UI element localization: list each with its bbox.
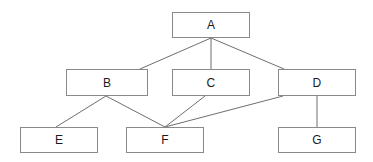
node-a-label: A [207, 19, 215, 31]
node-c-label: C [207, 77, 216, 89]
edge-b-f [106, 96, 165, 127]
node-a[interactable]: A [172, 12, 250, 38]
edge-a-b [140, 38, 211, 69]
edge-c-f [165, 96, 205, 127]
node-b[interactable]: B [66, 69, 148, 96]
edge-b-e [56, 96, 106, 127]
edge-a-d [211, 38, 284, 69]
node-e[interactable]: E [20, 127, 98, 153]
node-g-label: G [312, 134, 322, 146]
node-b-label: B [103, 77, 111, 89]
node-d-label: D [313, 77, 322, 89]
node-e-label: E [55, 134, 63, 146]
node-f[interactable]: F [126, 127, 204, 153]
node-g[interactable]: G [278, 127, 356, 153]
diagram-canvas: A B C D E F G [0, 0, 373, 162]
node-d[interactable]: D [278, 69, 356, 96]
edge-d-f [165, 96, 283, 127]
node-c[interactable]: C [172, 69, 250, 96]
node-f-label: F [161, 134, 169, 146]
